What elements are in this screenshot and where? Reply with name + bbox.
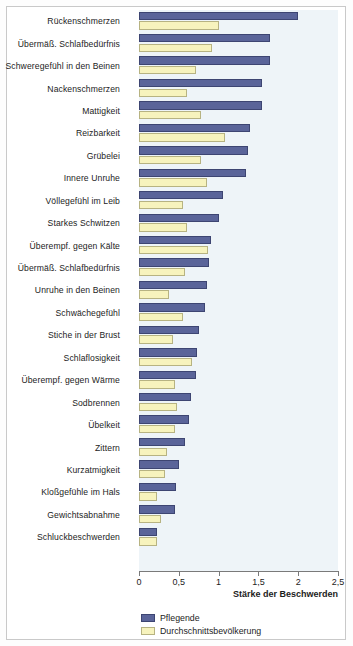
category-label: Gewichtsabnahme — [47, 511, 120, 520]
legend-item-durchschnittsbevoelkerung: Durchschnittsbevölkerung — [141, 625, 261, 637]
bar-pflegende — [139, 169, 246, 177]
bar-durchschnittsbevoelkerung — [139, 537, 157, 545]
bar-pflegende — [139, 146, 248, 154]
bar-pair — [139, 10, 323, 32]
bar-pflegende — [139, 348, 197, 356]
bar-durchschnittsbevoelkerung — [139, 313, 183, 321]
bar-pflegende — [139, 528, 157, 536]
category-label: Übermäß. Schlafbedürfnis — [18, 39, 120, 48]
category-label: Übermäß. Schlafbedürfnis — [18, 264, 120, 273]
category-label: Schweregefühl in den Beinen — [6, 62, 121, 71]
bar-pflegende — [139, 393, 191, 401]
bar-pflegende — [139, 12, 298, 20]
bar-durchschnittsbevoelkerung — [139, 403, 177, 411]
category-label: Übelkeit — [88, 421, 120, 430]
x-tick-mark — [139, 571, 140, 576]
bar-pair — [139, 145, 323, 167]
bar-pair — [139, 279, 323, 301]
x-tick-mark — [179, 571, 180, 576]
bar-pair — [139, 436, 323, 458]
bar-pair — [139, 504, 323, 526]
bar-durchschnittsbevoelkerung — [139, 223, 187, 231]
bar-pflegende — [139, 303, 205, 311]
bar-pflegende — [139, 415, 189, 423]
bar-rows: RückenschmerzenÜbermäß. SchlafbedürfnisS… — [0, 10, 338, 571]
bar-pair — [139, 302, 323, 324]
bar-durchschnittsbevoelkerung — [139, 66, 196, 74]
legend-label-durchschnittsbevoelkerung: Durchschnittsbevölkerung — [160, 626, 261, 636]
bar-durchschnittsbevoelkerung — [139, 515, 161, 523]
legend-item-pflegende: Pflegende — [141, 612, 261, 624]
category-label: Kurzatmigkeit — [67, 466, 120, 475]
bar-pflegende — [139, 56, 270, 64]
legend-swatch-icon-pflegende — [141, 614, 155, 622]
chart-plot-area: RückenschmerzenÜbermäß. SchlafbedürfnisS… — [0, 0, 353, 585]
bar-group-row: Schluckbeschwerden — [0, 526, 338, 548]
x-tick-mark — [298, 571, 299, 576]
bar-pflegende — [139, 326, 199, 334]
bar-group-row: Völlegefühl im Leib — [0, 190, 338, 212]
bar-pair — [139, 190, 323, 212]
bar-durchschnittsbevoelkerung — [139, 156, 201, 164]
x-axis-label: Stärke der Beschwerden — [139, 589, 338, 599]
x-tick-mark — [258, 571, 259, 576]
bar-durchschnittsbevoelkerung — [139, 246, 208, 254]
bar-durchschnittsbevoelkerung — [139, 448, 167, 456]
bar-group-row: Kloßgefühle im Hals — [0, 481, 338, 503]
category-label: Mattigkeit — [82, 107, 120, 116]
bar-durchschnittsbevoelkerung — [139, 268, 185, 276]
bar-durchschnittsbevoelkerung — [139, 358, 192, 366]
bar-pair — [139, 122, 323, 144]
bar-pair — [139, 347, 323, 369]
bar-pflegende — [139, 258, 209, 266]
bar-group-row: Innere Unruhe — [0, 167, 338, 189]
category-label: Völlegefühl im Leib — [45, 196, 120, 205]
bar-group-row: Nackenschmerzen — [0, 77, 338, 99]
bar-durchschnittsbevoelkerung — [139, 111, 201, 119]
category-label: Kloßgefühle im Hals — [41, 488, 120, 497]
bar-pflegende — [139, 483, 176, 491]
bar-pflegende — [139, 236, 211, 244]
bar-durchschnittsbevoelkerung — [139, 492, 157, 500]
bar-group-row: Grübelei — [0, 145, 338, 167]
x-tick-label: 1,5 — [252, 577, 265, 587]
x-tick-label: 0 — [136, 577, 141, 587]
category-label: Starkes Schwitzen — [48, 219, 120, 228]
bar-pflegende — [139, 460, 179, 468]
bar-pflegende — [139, 124, 250, 132]
category-label: Unruhe in den Beinen — [35, 286, 120, 295]
bar-group-row: Starkes Schwitzen — [0, 212, 338, 234]
bar-pflegende — [139, 34, 270, 42]
bar-durchschnittsbevoelkerung — [139, 335, 173, 343]
bar-pflegende — [139, 438, 185, 446]
bar-durchschnittsbevoelkerung — [139, 380, 175, 388]
x-tick-mark — [338, 571, 339, 576]
bar-durchschnittsbevoelkerung — [139, 44, 212, 52]
bar-pair — [139, 369, 323, 391]
x-axis-line — [139, 571, 338, 572]
bar-group-row: Gewichtsabnahme — [0, 504, 338, 526]
category-label: Stiche in der Brust — [48, 331, 120, 340]
bar-group-row: Schweregefühl in den Beinen — [0, 55, 338, 77]
category-label: Grübelei — [87, 152, 120, 161]
bar-pflegende — [139, 371, 196, 379]
bar-pflegende — [139, 214, 219, 222]
bar-pflegende — [139, 191, 223, 199]
x-tick-mark — [219, 571, 220, 576]
category-label: Rückenschmerzen — [47, 17, 120, 26]
bar-pair — [139, 324, 323, 346]
category-label: Reizbarkeit — [76, 129, 120, 138]
bar-group-row: Schlaflosigkeit — [0, 347, 338, 369]
legend-swatch-icon-durchschnittsbevoelkerung — [141, 627, 155, 635]
bar-pflegende — [139, 79, 262, 87]
bar-pair — [139, 55, 323, 77]
bar-durchschnittsbevoelkerung — [139, 425, 175, 433]
bar-durchschnittsbevoelkerung — [139, 470, 165, 478]
bar-durchschnittsbevoelkerung — [139, 201, 183, 209]
category-label: Sodbrennen — [72, 398, 120, 407]
x-tick-label: 0,5 — [173, 577, 186, 587]
bar-group-row: Stiche in der Brust — [0, 324, 338, 346]
category-label: Innere Unruhe — [64, 174, 120, 183]
bar-group-row: Sodbrennen — [0, 391, 338, 413]
bar-group-row: Überempf. gegen Wärme — [0, 369, 338, 391]
